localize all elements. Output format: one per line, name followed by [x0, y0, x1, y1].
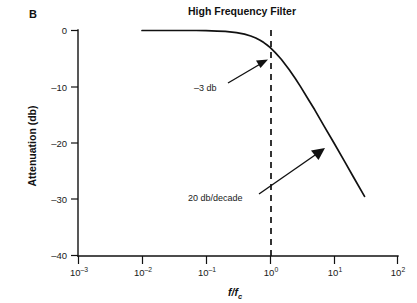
y-tick-label-minus40: –40 [51, 250, 67, 261]
high-frequency-filter-chart: B High Frequency Filter 0 –10 –20 –30 –4… [0, 0, 417, 303]
panel-letter: B [29, 8, 37, 20]
y-tick-label-0: 0 [62, 25, 67, 36]
y-axis-title: Attenuation (db) [26, 105, 38, 186]
chart-title: High Frequency Filter [188, 5, 296, 17]
y-tick-label-minus10: –10 [51, 82, 67, 93]
y-tick-label-minus30: –30 [51, 194, 67, 205]
y-tick-label-minus20: –20 [51, 138, 67, 149]
minus-3db-label: –3 db [194, 83, 217, 93]
slope-label: 20 db/decade [188, 193, 243, 203]
